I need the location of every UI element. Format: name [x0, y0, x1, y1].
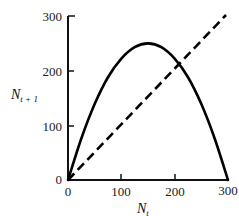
ytick-200: 200 — [43, 64, 63, 79]
xtick-0: 0 — [65, 184, 72, 199]
chart: 300 200 100 0 0 100 200 300 Nt + 1 Nt — [0, 0, 239, 216]
xtick-300: 300 — [218, 183, 238, 198]
x-axis-label: Nt — [136, 201, 149, 216]
ytick-0: 0 — [56, 172, 63, 187]
y-axis-label: Nt + 1 — [10, 87, 38, 104]
xtick-100: 100 — [111, 184, 131, 199]
ytick-100: 100 — [43, 119, 63, 134]
replacement-line — [68, 15, 226, 180]
ytick-300: 300 — [43, 9, 63, 24]
recruitment-curve — [68, 43, 228, 180]
xtick-200: 200 — [165, 184, 185, 199]
y-ticks — [68, 16, 75, 126]
